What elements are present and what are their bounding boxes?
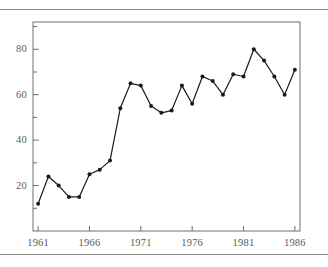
data-point-1976 [190, 102, 194, 106]
plot-frame-box [33, 22, 300, 231]
data-point-1986 [293, 68, 297, 72]
data-point-1977 [200, 75, 204, 79]
top-divider-rule [0, 9, 328, 10]
series-1-markers [36, 47, 297, 205]
data-point-1980 [231, 72, 235, 76]
line-chart: 20406080 196119661971197619811986 [0, 12, 328, 252]
data-point-1966 [87, 172, 91, 176]
data-point-1973 [159, 111, 163, 115]
data-point-1962 [46, 174, 50, 178]
y-axis-label-60: 60 [5, 89, 27, 100]
data-point-1965 [77, 195, 81, 199]
data-point-1981 [242, 75, 246, 79]
data-point-1961 [36, 202, 40, 206]
x-axis-label-1981: 1981 [224, 237, 264, 248]
y-axis-label-80: 80 [5, 43, 27, 54]
data-point-1983 [262, 59, 266, 63]
x-axis-label-1986: 1986 [275, 237, 315, 248]
x-axis-label-1961: 1961 [18, 237, 58, 248]
x-axis-label-1976: 1976 [172, 237, 212, 248]
data-point-1984 [272, 75, 276, 79]
series-1-line [38, 49, 295, 203]
chart-page: 20406080 196119661971197619811986 [0, 0, 328, 267]
data-point-1968 [108, 159, 112, 163]
data-point-1970 [129, 81, 133, 85]
y-axis-label-40: 40 [5, 134, 27, 145]
data-point-1982 [252, 47, 256, 51]
data-point-1979 [221, 93, 225, 97]
bottom-divider-rule [0, 254, 328, 255]
data-point-1974 [170, 109, 174, 113]
data-point-1967 [98, 168, 102, 172]
y-axis-label-20: 20 [5, 180, 27, 191]
data-point-1972 [149, 104, 153, 108]
chart-plot-svg [0, 12, 328, 252]
plot-frame [33, 22, 300, 231]
x-axis-label-1971: 1971 [121, 237, 161, 248]
data-point-1963 [57, 184, 61, 188]
data-point-1969 [118, 106, 122, 110]
data-point-1964 [67, 195, 71, 199]
data-point-1971 [139, 84, 143, 88]
data-point-1978 [211, 79, 215, 83]
data-point-1985 [283, 93, 287, 97]
x-axis-label-1966: 1966 [69, 237, 109, 248]
y-axis-minor-ticks [33, 27, 37, 209]
x-axis-major-ticks [38, 226, 295, 231]
data-point-1975 [180, 84, 184, 88]
